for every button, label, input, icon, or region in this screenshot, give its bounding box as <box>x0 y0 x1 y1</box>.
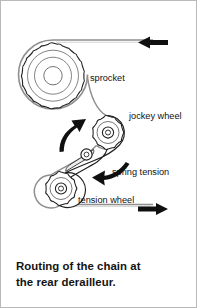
sprocket-label: sprocket <box>90 73 125 83</box>
caption-line-2: the rear derailleur. <box>16 275 184 291</box>
tension-wheel-label: tension wheel <box>78 195 134 205</box>
chain-direction-top-arrow-icon <box>138 37 168 49</box>
jockey-wheel-bolt <box>106 130 111 135</box>
figure-caption: Routing of the chain at the rear deraill… <box>1 247 197 308</box>
jockey-wheel-label: jockey wheel <box>128 111 182 121</box>
cage-pivot-bolt-icon <box>81 149 92 160</box>
cage-rotation-arrow-icon <box>59 119 86 152</box>
tension-wheel-bolt <box>59 186 64 191</box>
sprocket <box>21 43 84 109</box>
cage-pivot-inner <box>84 152 89 157</box>
caption-line-1: Routing of the chain at <box>16 259 184 275</box>
spring-tension-label: spring tension <box>112 167 169 177</box>
figure-card: sprocket jockey wheel spring tension ten… <box>0 0 197 308</box>
sprocket-teeth <box>21 43 84 109</box>
derailleur-chain-routing-diagram: sprocket jockey wheel spring tension ten… <box>1 1 197 246</box>
